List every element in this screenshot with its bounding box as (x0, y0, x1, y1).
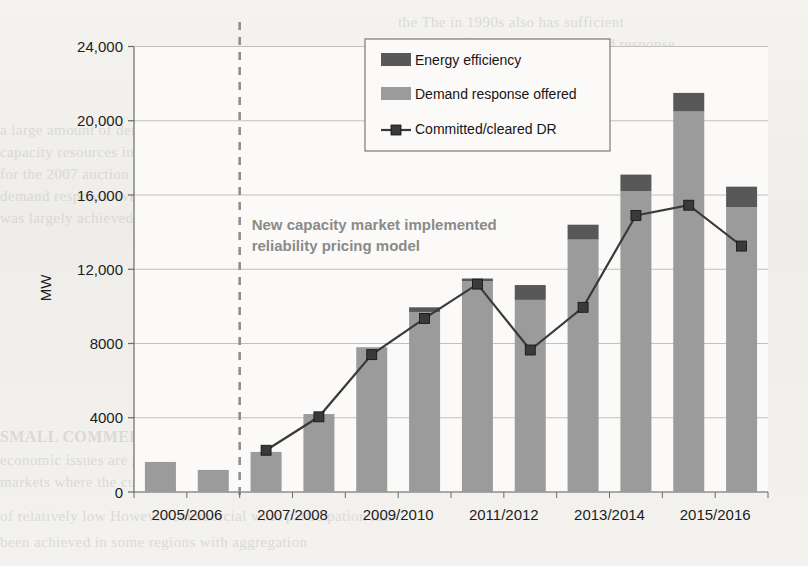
line-marker-0 (261, 445, 271, 455)
bar-offered-2005/2006 (145, 462, 176, 492)
y-tick-label-16000: 16,000 (77, 187, 123, 204)
bar-offered-2007/2008 (251, 452, 282, 492)
line-marker-4 (472, 279, 482, 289)
y-tick-label-24000: 24,000 (77, 38, 123, 55)
bar-offered-2008/2009 (303, 414, 334, 492)
x-tick-label-3: 2011/2012 (469, 506, 539, 523)
x-tick-label-2: 2009/2010 (363, 506, 434, 523)
bar-energy-efficiency-2012/2013 (515, 285, 546, 300)
line-marker-5 (525, 345, 535, 355)
legend-label-2: Committed/cleared DR (415, 121, 557, 137)
legend-swatch-1 (381, 87, 411, 100)
chart-svg: 04000800012,00016,00020,00024,000MWNew c… (0, 0, 808, 566)
legend-label-0: Energy efficiency (415, 52, 521, 68)
bar-offered-2013/2014 (568, 240, 599, 492)
bar-energy-efficiency-2016/2017 (726, 187, 757, 207)
line-marker-2 (367, 350, 377, 360)
line-marker-3 (420, 313, 430, 323)
y-tick-label-20000: 20,000 (77, 112, 123, 129)
line-marker-8 (684, 200, 694, 210)
bar-energy-efficiency-2014/2015 (620, 175, 651, 192)
bar-energy-efficiency-2013/2014 (568, 225, 599, 240)
line-marker-1 (314, 412, 324, 422)
legend: Energy efficiencyDemand response offered… (365, 39, 610, 151)
x-tick-label-1: 2007/2008 (257, 506, 328, 523)
line-marker-6 (578, 302, 588, 312)
annotation-line-2: reliability pricing model (252, 237, 420, 254)
bar-offered-2011/2012 (462, 281, 493, 492)
x-tick-label-5: 2015/2016 (680, 506, 751, 523)
legend-label-1: Demand response offered (415, 86, 577, 102)
bar-energy-efficiency-2015/2016 (673, 93, 704, 112)
y-tick-label-12000: 12,000 (77, 261, 123, 278)
demand-response-capacity-chart: 04000800012,00016,00020,00024,000MWNew c… (0, 0, 808, 566)
y-axis-title: MW (37, 274, 54, 301)
y-tick-label-8000: 8000 (90, 335, 123, 352)
bar-offered-2006/2007 (198, 470, 229, 492)
bar-offered-2010/2011 (409, 312, 440, 492)
bar-offered-2012/2013 (515, 300, 546, 492)
y-tick-label-0: 0 (115, 484, 123, 501)
line-marker-9 (737, 241, 747, 251)
line-marker-7 (631, 210, 641, 220)
legend-swatch-0 (381, 53, 411, 66)
bar-offered-2015/2016 (673, 111, 704, 492)
x-tick-label-0: 2005/2006 (151, 506, 222, 523)
x-tick-label-4: 2013/2014 (574, 506, 645, 523)
annotation-line-1: New capacity market implemented (252, 216, 497, 233)
legend-swatch-marker-2 (391, 125, 401, 135)
y-tick-label-4000: 4000 (90, 409, 123, 426)
